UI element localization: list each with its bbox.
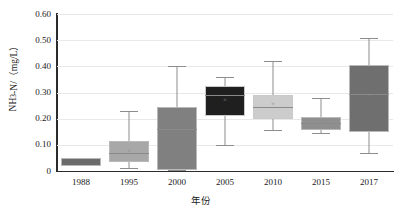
box-plot-group: ×: [301, 14, 341, 171]
whisker-cap-lower: [120, 168, 138, 169]
y-axis-tick-label: 0.20: [23, 114, 51, 123]
whisker-lower: [225, 116, 226, 145]
x-axis-title: 年份: [0, 193, 401, 207]
y-axis-title-suffix: -N/（mg/L）: [6, 41, 20, 94]
box-plot-group: ×: [157, 14, 197, 171]
x-axis-tick-label: 2005: [216, 178, 234, 187]
x-axis-tick-labels: 1988199520002005201020152017: [0, 178, 401, 190]
x-axis-tick-label: 2017: [360, 178, 378, 187]
whisker-lower: [369, 132, 370, 153]
mean-marker-icon: ×: [127, 148, 131, 155]
y-axis-tick-label: 0.40: [23, 62, 51, 71]
mean-marker-icon: ×: [223, 97, 227, 104]
y-axis-tick-label: 0: [23, 167, 51, 176]
x-axis-tick-label: 1995: [120, 178, 138, 187]
mean-marker-icon: ×: [319, 119, 323, 126]
box-plot-group: ×: [253, 14, 293, 171]
whisker-upper: [129, 111, 130, 141]
whisker-cap-lower: [312, 133, 330, 134]
whisker-cap-lower: [360, 153, 378, 154]
whisker-cap-upper: [264, 61, 282, 62]
y-axis-tick-label: 0.60: [23, 10, 51, 19]
whisker-cap-upper: [216, 77, 234, 78]
whisker-cap-upper: [312, 98, 330, 99]
whisker-upper: [369, 38, 370, 65]
plot-area: ××××××: [57, 14, 393, 171]
mean-marker-icon: ×: [175, 132, 179, 139]
whisker-upper: [273, 61, 274, 95]
box-plot-group: [61, 14, 101, 171]
box-plot-group: ×: [349, 14, 389, 171]
whisker-lower: [273, 119, 274, 131]
whisker-cap-lower: [216, 145, 234, 146]
whisker-upper: [177, 66, 178, 107]
x-axis-tick-label: 2000: [168, 178, 186, 187]
x-axis-tick-label: 2015: [312, 178, 330, 187]
x-axis-line: [56, 171, 394, 172]
whisker-cap-upper: [360, 38, 378, 39]
median-line: [157, 129, 197, 130]
whisker-upper: [225, 77, 226, 86]
box-plot-group: ×: [205, 14, 245, 171]
mean-marker-icon: ×: [367, 92, 371, 99]
box-plot-group: ×: [109, 14, 149, 171]
y-axis-tick-label: 0.10: [23, 140, 51, 149]
y-axis-title: NH3-N/（mg/L）: [4, 0, 22, 186]
whisker-cap-upper: [168, 66, 186, 67]
x-axis-tick-label: 1988: [72, 178, 90, 187]
whisker-upper: [321, 98, 322, 118]
y-axis-title-prefix: NH: [8, 98, 18, 112]
boxplot-chart: NH3-N/（mg/L） 00.100.200.300.400.500.60 ×…: [0, 0, 401, 220]
box-rect: [61, 158, 101, 166]
y-axis-tick-label: 0.50: [23, 36, 51, 45]
x-axis-tick-label: 2010: [264, 178, 282, 187]
whisker-cap-lower: [264, 130, 282, 131]
whisker-cap-upper: [120, 111, 138, 112]
y-axis-title-subscript: 3: [9, 94, 18, 98]
whisker-cap-lower: [168, 170, 186, 171]
y-axis-tick-label: 0.30: [23, 88, 51, 97]
mean-marker-icon: ×: [271, 101, 275, 108]
